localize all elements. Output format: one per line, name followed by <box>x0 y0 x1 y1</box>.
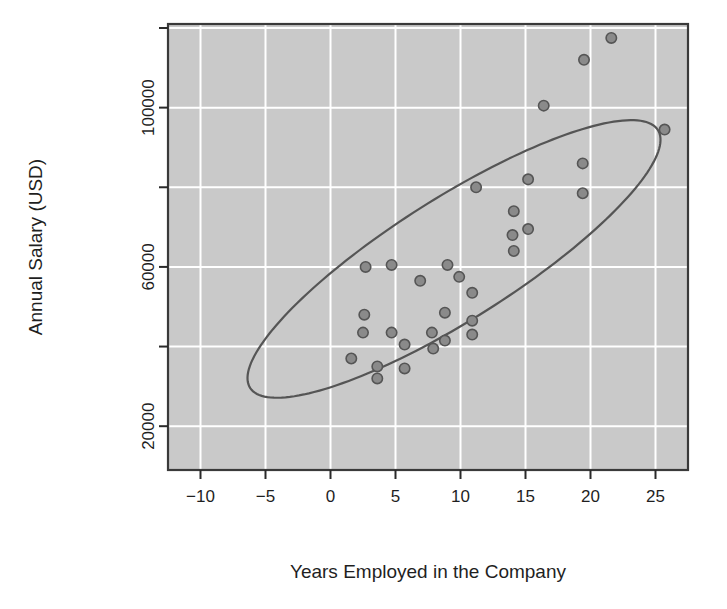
plot-svg: −10−50510152025 2000060000100000 Years E… <box>0 0 727 609</box>
data-point <box>372 361 382 371</box>
data-point <box>428 343 438 353</box>
data-point <box>579 55 589 65</box>
data-point <box>467 288 477 298</box>
y-tick-label: 60000 <box>139 243 158 290</box>
x-tick-label: 20 <box>581 487 600 506</box>
data-point <box>372 373 382 383</box>
x-tick-label: 5 <box>391 487 400 506</box>
data-point <box>442 260 452 270</box>
x-tick-label: 10 <box>451 487 470 506</box>
data-point <box>359 310 369 320</box>
x-tick-label: −10 <box>186 487 215 506</box>
data-point <box>523 174 533 184</box>
data-point <box>606 33 616 43</box>
data-point <box>507 230 517 240</box>
y-axis-ticks <box>159 28 168 426</box>
data-point <box>523 224 533 234</box>
y-tick-label: 20000 <box>139 403 158 450</box>
x-tick-label: 25 <box>646 487 665 506</box>
data-point <box>539 100 549 110</box>
y-axis-title: Annual Salary (USD) <box>25 159 46 335</box>
x-axis-tick-labels: −10−50510152025 <box>186 487 665 506</box>
x-tick-label: −5 <box>256 487 275 506</box>
data-point <box>578 188 588 198</box>
x-axis-ticks <box>201 470 656 479</box>
x-tick-label: 0 <box>326 487 335 506</box>
data-point <box>509 206 519 216</box>
data-point <box>467 329 477 339</box>
data-point <box>440 308 450 318</box>
data-point <box>360 262 370 272</box>
x-tick-label: 15 <box>516 487 535 506</box>
scatter-plot-figure: −10−50510152025 2000060000100000 Years E… <box>0 0 727 609</box>
plot-panel-background <box>168 24 688 470</box>
data-point <box>415 276 425 286</box>
data-point <box>399 339 409 349</box>
x-axis-title: Years Employed in the Company <box>290 561 567 582</box>
data-point <box>386 327 396 337</box>
data-point <box>454 272 464 282</box>
data-point <box>427 327 437 337</box>
data-point <box>659 124 669 134</box>
data-point <box>440 335 450 345</box>
data-point <box>467 315 477 325</box>
data-point <box>399 363 409 373</box>
data-point <box>358 327 368 337</box>
data-point <box>578 158 588 168</box>
data-point <box>471 182 481 192</box>
y-tick-label: 100000 <box>139 79 158 136</box>
data-point <box>386 260 396 270</box>
y-axis-tick-labels: 2000060000100000 <box>139 79 158 450</box>
data-point <box>509 246 519 256</box>
data-point <box>346 353 356 363</box>
